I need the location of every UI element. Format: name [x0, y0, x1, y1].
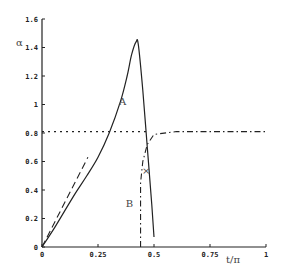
- y-tick-label: 0: [34, 244, 38, 252]
- chart-plot: 00.250.50.75100.20.40.60.811.21.41.6αt/π…: [0, 0, 281, 279]
- x-axis-label: t/π: [226, 254, 240, 265]
- x-tick-label: 0.25: [90, 251, 107, 259]
- y-tick-label: 0.6: [25, 158, 38, 166]
- series-a-line: [42, 40, 154, 247]
- x-tick-label: 0.75: [202, 251, 219, 259]
- x-tick-label: 1: [264, 251, 268, 259]
- x-marker: ×: [142, 165, 150, 176]
- y-tick-label: 1: [34, 101, 38, 109]
- y-tick-label: 0.4: [25, 187, 38, 195]
- curve-label-a: A: [118, 96, 127, 107]
- series-initial-slope-line: [42, 157, 88, 247]
- y-tick-label: 1.6: [25, 16, 38, 24]
- y-tick-label: 0.8: [25, 130, 38, 138]
- curve-label-b: B: [126, 198, 133, 209]
- y-axis-label: α: [16, 37, 23, 48]
- series-layer: [42, 40, 266, 247]
- y-tick-label: 1.4: [25, 44, 38, 52]
- series-b-line: [141, 132, 266, 247]
- x-tick-label: 0.5: [148, 251, 161, 259]
- y-tick-label: 1.2: [25, 73, 38, 81]
- y-tick-label: 0.2: [25, 215, 38, 223]
- x-tick-label: 0: [40, 251, 44, 259]
- axes: 00.250.50.75100.20.40.60.811.21.41.6αt/π: [16, 16, 268, 266]
